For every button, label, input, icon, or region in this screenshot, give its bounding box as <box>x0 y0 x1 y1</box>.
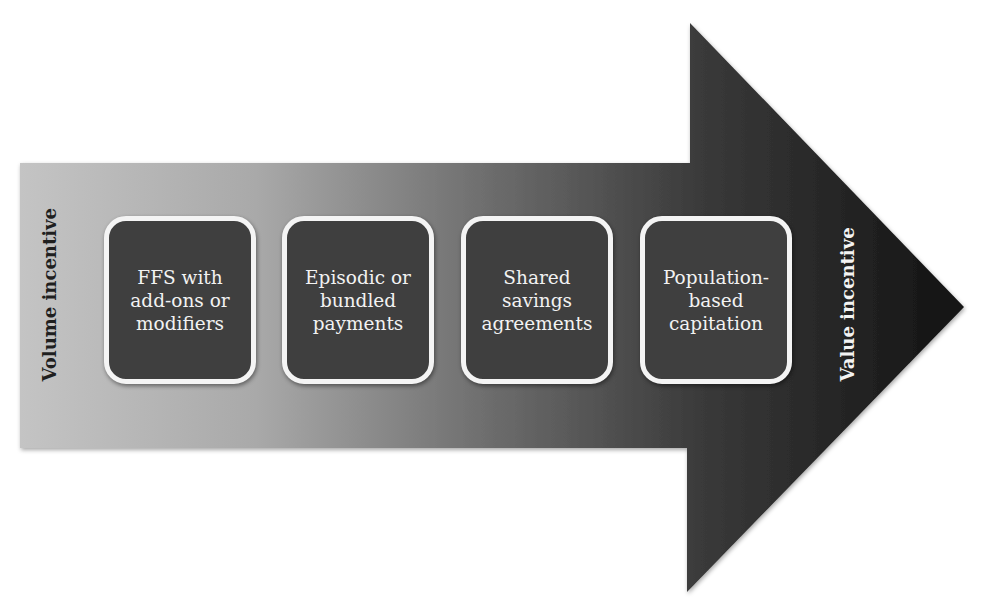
step-label: Episodic or bundled payments <box>305 266 411 335</box>
step-box-episodic-bundled: Episodic or bundled payments <box>282 216 434 384</box>
volume-incentive-label: Volume incentive <box>39 232 60 382</box>
step-box-population-capitation: Population- based capitation <box>640 216 792 384</box>
diagram-canvas: Volume incentive FFS with add-ons or mod… <box>0 0 983 606</box>
step-label: Shared savings agreements <box>482 266 593 335</box>
step-box-ffs: FFS with add-ons or modifiers <box>104 216 256 384</box>
step-label: Population- based capitation <box>663 266 769 335</box>
step-box-shared-savings: Shared savings agreements <box>461 216 613 384</box>
step-label: FFS with add-ons or modifiers <box>130 266 229 335</box>
value-incentive-label: Value incentive <box>837 232 858 382</box>
